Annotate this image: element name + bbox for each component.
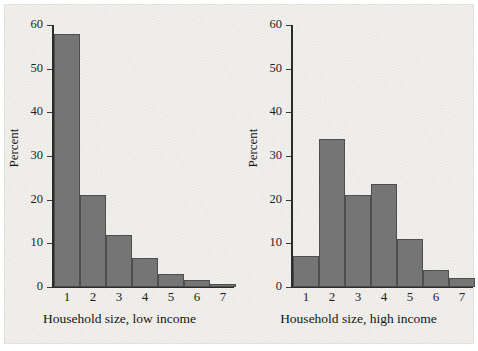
y-axis-tick-label: 10 bbox=[254, 236, 282, 249]
y-axis-tick bbox=[286, 287, 291, 288]
y-axis-tick bbox=[47, 69, 52, 70]
y-axis-tick bbox=[286, 112, 291, 113]
bar bbox=[184, 280, 210, 287]
y-axis-title-right: Percent bbox=[245, 98, 261, 198]
y-axis-tick bbox=[47, 243, 52, 244]
y-axis-tick bbox=[47, 156, 52, 157]
y-axis-tick-label: 60 bbox=[254, 18, 282, 31]
y-axis-tick bbox=[286, 156, 291, 157]
bar-series-right bbox=[293, 25, 475, 287]
bar bbox=[54, 34, 80, 287]
y-axis-tick-label: 10 bbox=[15, 236, 43, 249]
bar bbox=[80, 195, 106, 287]
bar-series-left bbox=[54, 25, 236, 287]
y-axis-tick bbox=[286, 200, 291, 201]
y-axis-tick bbox=[47, 200, 52, 201]
x-axis-tick-label: 4 bbox=[373, 290, 395, 304]
bar bbox=[210, 284, 236, 287]
x-axis-tick-label: 3 bbox=[347, 290, 369, 304]
figure-page: 0102030405060 1234567 Household size, lo… bbox=[0, 0, 478, 351]
y-axis-tick bbox=[286, 243, 291, 244]
x-axis-tick-label: 5 bbox=[399, 290, 421, 304]
plot-area-left: 0102030405060 1234567 Household size, lo… bbox=[0, 0, 239, 351]
bar bbox=[371, 184, 397, 287]
plot-area-right: 0102030405060 1234567 Household size, hi… bbox=[239, 0, 478, 351]
chart-panel-low-income: 0102030405060 1234567 Household size, lo… bbox=[0, 0, 239, 351]
y-axis-tick bbox=[47, 25, 52, 26]
y-axis-tick-label: 50 bbox=[15, 62, 43, 75]
x-axis-tick-label: 1 bbox=[56, 290, 78, 304]
bar bbox=[158, 274, 184, 287]
x-axis-tick-label: 5 bbox=[160, 290, 182, 304]
y-axis-tick bbox=[47, 287, 52, 288]
x-axis-tick-label: 6 bbox=[425, 290, 447, 304]
x-axis-tick-label: 2 bbox=[82, 290, 104, 304]
y-axis-tick bbox=[286, 69, 291, 70]
y-axis-tick bbox=[286, 25, 291, 26]
chart-panel-high-income: 0102030405060 1234567 Household size, hi… bbox=[239, 0, 478, 351]
bar bbox=[293, 256, 319, 287]
bar bbox=[423, 270, 449, 287]
y-axis-tick-label: 50 bbox=[254, 62, 282, 75]
y-axis-tick-label: 0 bbox=[254, 280, 282, 293]
bar bbox=[449, 278, 475, 287]
bar bbox=[319, 139, 345, 287]
x-axis-tick-label: 1 bbox=[295, 290, 317, 304]
bar bbox=[345, 195, 371, 287]
x-axis-title-left: Household size, low income bbox=[0, 311, 239, 327]
x-axis-tick-labels-right: 1234567 bbox=[293, 290, 475, 308]
x-axis-tick-label: 2 bbox=[321, 290, 343, 304]
bar bbox=[132, 258, 158, 287]
bar bbox=[106, 235, 132, 287]
x-axis-title-right: Household size, high income bbox=[239, 311, 478, 327]
x-axis-tick-label: 6 bbox=[186, 290, 208, 304]
x-axis-tick-label: 7 bbox=[212, 290, 234, 304]
x-axis-tick-label: 7 bbox=[451, 290, 473, 304]
y-axis-tick-label: 60 bbox=[15, 18, 43, 31]
y-axis-tick-label: 0 bbox=[15, 280, 43, 293]
x-axis-tick-labels-left: 1234567 bbox=[54, 290, 236, 308]
bar bbox=[397, 239, 423, 287]
x-axis-tick-label: 4 bbox=[134, 290, 156, 304]
y-axis-title-left: Percent bbox=[6, 98, 22, 198]
x-axis-tick-label: 3 bbox=[108, 290, 130, 304]
y-axis-tick bbox=[47, 112, 52, 113]
